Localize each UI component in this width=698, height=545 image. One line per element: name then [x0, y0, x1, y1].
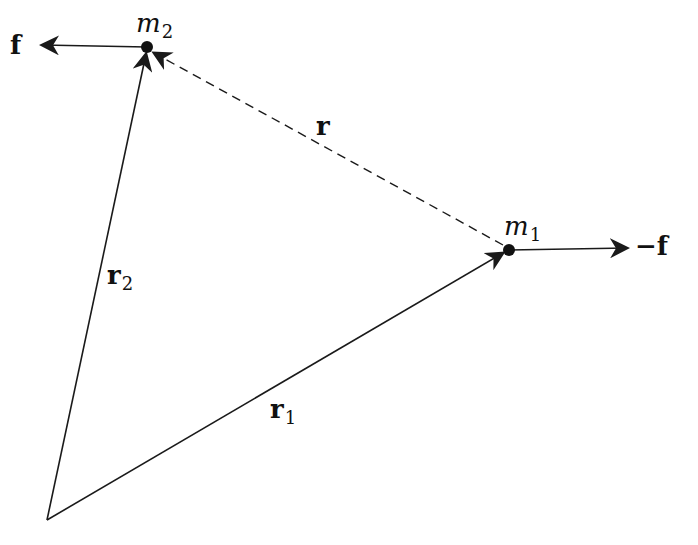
mass-m1-dot	[503, 244, 515, 256]
two-body-diagram: f −f m2 m1 r r2 r1	[0, 0, 698, 545]
label-r1: r1	[270, 396, 296, 422]
label-m2-text: m	[136, 8, 161, 38]
label-f: f	[10, 32, 21, 58]
label-m2: m2	[136, 10, 173, 36]
force-neg-f-arrow	[509, 248, 627, 250]
label-neg-f: −f	[635, 233, 668, 259]
label-m1-text: m	[504, 211, 529, 241]
label-r2-text: r	[107, 260, 121, 290]
diagram-svg	[0, 0, 698, 545]
label-r2: r2	[107, 262, 133, 288]
label-r: r	[316, 113, 330, 139]
label-r1-subscript: 1	[285, 407, 296, 428]
label-f-text: f	[10, 30, 21, 60]
force-f-arrow	[42, 45, 147, 47]
label-neg-f-text: −f	[635, 231, 668, 261]
mass-m2-dot	[141, 41, 153, 53]
label-r1-text: r	[270, 394, 284, 424]
label-r2-subscript: 2	[122, 273, 133, 294]
label-m1-subscript: 1	[530, 224, 541, 245]
label-r-text: r	[316, 111, 330, 141]
label-m1: m1	[504, 213, 541, 239]
vector-r-dashed	[154, 53, 503, 245]
label-m2-subscript: 2	[162, 21, 173, 42]
vector-r1	[47, 253, 503, 520]
